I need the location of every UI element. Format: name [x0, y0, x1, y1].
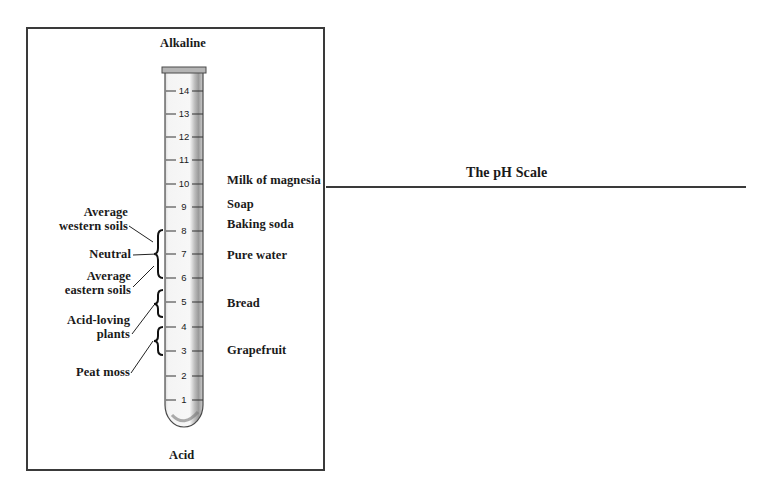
- tube-rim: [162, 67, 206, 73]
- tick-13: 13: [176, 108, 192, 119]
- label-neutral: Neutral: [89, 247, 131, 262]
- label-milk-of-magnesia: Milk of magnesia: [227, 173, 321, 188]
- tick-2: 2: [176, 370, 192, 381]
- label-bread: Bread: [227, 296, 260, 311]
- title-underline: [326, 186, 746, 188]
- diagram-title: The pH Scale: [466, 165, 547, 181]
- tick-14: 14: [176, 85, 192, 96]
- label-pure-water: Pure water: [227, 248, 287, 263]
- label-soap: Soap: [227, 197, 254, 212]
- tick-9: 9: [176, 201, 192, 212]
- leader-lines: [129, 226, 157, 373]
- tick-12: 12: [176, 131, 192, 142]
- tick-10: 10: [176, 178, 192, 189]
- label-baking-soda: Baking soda: [227, 217, 294, 232]
- tick-6: 6: [176, 272, 192, 283]
- label-acid-loving-plants: Acid-loving plants: [67, 313, 130, 341]
- tick-1: 1: [176, 394, 192, 405]
- tick-11: 11: [176, 154, 192, 165]
- label-grapefruit: Grapefruit: [227, 343, 286, 358]
- tick-8: 8: [176, 225, 192, 236]
- tick-7: 7: [176, 248, 192, 259]
- label-average-eastern-soils: Average eastern soils: [65, 269, 131, 297]
- range-braces: [154, 230, 163, 355]
- acid-label: Acid: [169, 448, 194, 463]
- tick-3: 3: [176, 345, 192, 356]
- label-peat-moss: Peat moss: [76, 365, 130, 380]
- label-average-western-soils: Average western soils: [59, 205, 128, 233]
- tick-4: 4: [176, 321, 192, 332]
- alkaline-label: Alkaline: [160, 36, 206, 51]
- tick-5: 5: [176, 296, 192, 307]
